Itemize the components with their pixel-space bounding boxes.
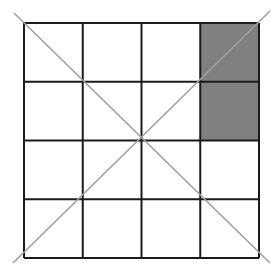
shaded-cell [200,23,259,82]
shaded-cell [200,82,259,141]
grid-diagram [0,0,279,266]
